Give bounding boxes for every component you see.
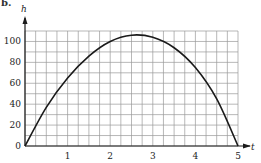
x-tick-label: 2 [107, 151, 113, 161]
x-tick-label: 5 [235, 151, 241, 161]
y-tick-labels: 020406080100 [4, 36, 21, 151]
x-axis-label: t [251, 142, 255, 152]
y-tick-label: 0 [15, 141, 21, 151]
y-tick-label: 80 [10, 57, 22, 67]
x-tick-label: 1 [65, 151, 71, 161]
x-tick-label: 4 [193, 151, 199, 161]
y-tick-label: 20 [10, 120, 22, 130]
grid [25, 31, 238, 146]
y-tick-label: 100 [4, 36, 21, 46]
y-axis-label: h [21, 4, 27, 14]
y-tick-label: 60 [10, 78, 22, 88]
x-tick-label: 3 [150, 151, 156, 161]
y-tick-label: 40 [10, 99, 22, 109]
x-tick-labels: 12345 [65, 151, 241, 161]
chart: 020406080100 12345 h t [0, 0, 261, 163]
